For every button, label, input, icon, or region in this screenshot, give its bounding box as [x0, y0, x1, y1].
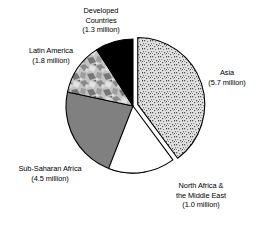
pie-label-north-africa-middle-east-line1: North Africa &: [150, 181, 252, 191]
pie-label-latin-america-value: (1.8 million): [8, 56, 94, 66]
pie-label-north-africa-middle-east: North Africa & the Middle East (1.0 mill…: [150, 181, 252, 210]
pie-label-latin-america-line1: Latin America: [8, 46, 94, 56]
pie-label-north-africa-middle-east-value: (1.0 million): [150, 200, 252, 210]
pie-label-latin-america: Latin America (1.8 million): [8, 46, 94, 65]
pie-label-sub-saharan-africa-line1: Sub-Saharan Africa: [0, 164, 100, 174]
pie-label-asia-line1: Asia: [198, 68, 256, 78]
pie-label-asia-value: (5.7 million): [198, 78, 256, 88]
pie-label-sub-saharan-africa: Sub-Saharan Africa (4.5 million): [0, 164, 100, 183]
pie-label-north-africa-middle-east-line2: the Middle East: [150, 191, 252, 201]
pie-label-developed-countries: Developed Countries (1.3 million): [58, 6, 144, 35]
pie-label-asia: Asia (5.7 million): [198, 68, 256, 87]
pie-label-developed-countries-line2: Countries: [58, 16, 144, 26]
pie-label-developed-countries-line1: Developed: [58, 6, 144, 16]
pie-chart: Developed Countries (1.3 million) Latin …: [0, 0, 256, 227]
pie-label-sub-saharan-africa-value: (4.5 million): [0, 174, 100, 184]
pie-label-developed-countries-value: (1.3 million): [58, 25, 144, 35]
